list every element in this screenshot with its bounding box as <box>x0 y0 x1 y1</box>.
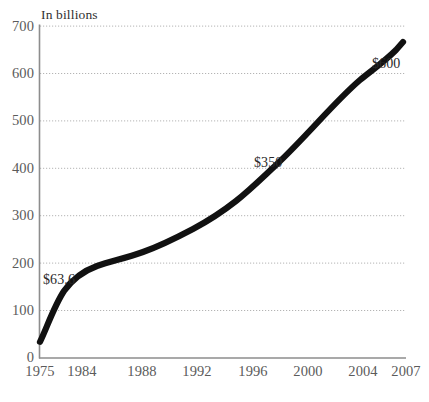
x-tick-label-2007: 2007 <box>384 363 428 380</box>
x-tick-label-1992: 1992 <box>175 363 219 380</box>
y-tick-label-500: 500 <box>0 112 34 129</box>
x-tick-label-1996: 1996 <box>231 363 275 380</box>
data-line <box>40 42 403 342</box>
y-tick-label-600: 600 <box>0 65 34 82</box>
annotation-middle-value: $350 <box>254 155 282 171</box>
x-tick-label-2004: 2004 <box>341 363 385 380</box>
chart-plot-area <box>0 0 429 402</box>
annotation-start-value: $63.6 <box>43 272 75 288</box>
chart-container: In billions 700 600 500 400 300 200 100 … <box>0 0 429 402</box>
x-tick-label-2000: 2000 <box>286 363 330 380</box>
y-tick-label-700: 700 <box>0 18 34 35</box>
y-tick-label-300: 300 <box>0 207 34 224</box>
y-tick-label-100: 100 <box>0 302 34 319</box>
x-tick-label-1984: 1984 <box>60 363 104 380</box>
y-tick-label-200: 200 <box>0 255 34 272</box>
x-tick-label-1988: 1988 <box>120 363 164 380</box>
y-tick-label-400: 400 <box>0 160 34 177</box>
x-tick-label-1975: 1975 <box>18 363 62 380</box>
annotation-end-value: $600 <box>372 56 400 72</box>
chart-title: In billions <box>41 7 98 23</box>
